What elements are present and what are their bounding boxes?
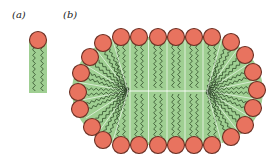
lipid-head-icon — [95, 132, 112, 149]
lipid-head-icon — [113, 137, 130, 154]
lipid-head-icon — [237, 117, 254, 134]
lipid-head-icon — [72, 101, 89, 118]
lipid-head-icon — [245, 64, 262, 81]
lipid-head-icon — [223, 34, 240, 51]
lipid-head-icon — [245, 100, 262, 117]
lipid-head-icon — [73, 65, 90, 82]
lipid-head-icon — [249, 82, 266, 99]
lipid-head-icon — [204, 29, 221, 46]
lipid-bilayer-disc — [70, 29, 266, 154]
lipid-head-icon — [131, 137, 148, 154]
lipid-head-icon — [186, 137, 203, 154]
lipid-head-icon — [131, 29, 148, 46]
lipid-head-icon — [70, 84, 87, 101]
lipid-head-icon — [30, 32, 47, 49]
lipid-head-icon — [186, 29, 203, 46]
lipid-diagram — [0, 0, 277, 160]
lipid-head-icon — [113, 29, 130, 46]
lipid-head-icon — [82, 49, 99, 66]
lipid-head-icon — [204, 137, 221, 154]
lipid-head-icon — [168, 137, 185, 154]
lipid-head-icon — [168, 29, 185, 46]
lipid-head-icon — [150, 137, 167, 154]
lipid-head-icon — [223, 129, 240, 146]
lipid-head-icon — [150, 29, 167, 46]
lipid-head-icon — [95, 35, 112, 52]
single-lipid — [29, 32, 47, 94]
lipid-head-icon — [237, 47, 254, 64]
